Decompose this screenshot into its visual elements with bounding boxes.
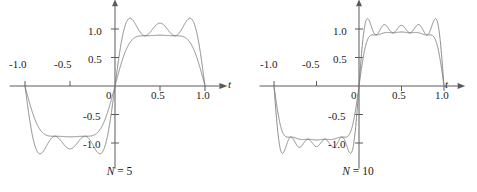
- x-tick-label-1-0-right: 1.0: [435, 90, 449, 101]
- y-tick-label-neg-1-0-right: -1.0: [328, 139, 345, 150]
- caption-n10-eq: =: [350, 165, 362, 177]
- x-axis-label-left: t: [228, 79, 231, 90]
- caption-n5: N = 5: [0, 166, 239, 178]
- caption-n10-symbol: N: [342, 165, 350, 177]
- y-tick-label-1-0-left: 1.0: [88, 26, 102, 37]
- x-tick-label-0-right: 0: [351, 90, 357, 101]
- plot-panel-n5: -1.0 -0.5 0 0.5 1.0 1.0 0.5 -0.5 -1.0 t …: [0, 0, 239, 192]
- y-axis-arrow: [112, 0, 118, 6]
- x-tick-label-0-5-right: 0.5: [392, 90, 406, 101]
- caption-n10-value: 10: [362, 165, 374, 177]
- x-tick-label-1-0-left: 1.0: [196, 90, 210, 101]
- plot-panel-n10: -1.0 -0.5 0 0.5 1.0 1.0 0.5 -0.5 -1.0 t …: [239, 0, 477, 192]
- caption-n10: N = 10: [239, 166, 477, 178]
- x-tick-label-neg-1-0-right: -1.0: [260, 59, 277, 70]
- x-tick-label-neg-0-5-right: -0.5: [302, 59, 319, 70]
- y-axis-arrow: [356, 0, 362, 6]
- x-tick-label-0-left: 0: [106, 90, 112, 101]
- x-axis-arrow: [219, 83, 227, 89]
- x-tick-label-0-5-left: 0.5: [151, 90, 165, 101]
- y-tick-label-neg-0-5-right: -0.5: [328, 111, 345, 122]
- x-tick-label-neg-1-0-left: -1.0: [9, 59, 26, 70]
- x-tick-label-neg-0-5-left: -0.5: [54, 59, 71, 70]
- y-tick-label-0-5-right: 0.5: [333, 54, 347, 65]
- caption-n5-eq: =: [114, 165, 126, 177]
- caption-n5-value: 5: [127, 165, 133, 177]
- y-tick-label-0-5-left: 0.5: [88, 54, 102, 65]
- y-tick-label-1-0-right: 1.0: [333, 26, 347, 37]
- y-tick-label-neg-0-5-left: -0.5: [83, 111, 100, 122]
- y-tick-label-neg-1-0-left: -1.0: [83, 139, 100, 150]
- gibbs-phenomenon-figure: -1.0 -0.5 0 0.5 1.0 1.0 0.5 -0.5 -1.0 t …: [0, 0, 477, 192]
- x-axis-label-right: t: [445, 79, 448, 90]
- x-axis-arrow: [458, 83, 466, 89]
